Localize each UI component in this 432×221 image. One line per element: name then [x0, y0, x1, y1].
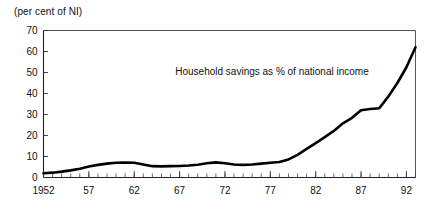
- line-chart-plot: 01020304050607019525762677277828792House…: [0, 0, 432, 221]
- x-tick-label: 77: [265, 185, 277, 196]
- x-tick-label: 92: [401, 185, 413, 196]
- y-tick-label: 70: [26, 25, 38, 36]
- y-tick-label: 0: [32, 172, 38, 183]
- x-tick-label: 57: [83, 185, 95, 196]
- x-tick-label: 82: [310, 185, 322, 196]
- y-tick-label: 50: [26, 67, 38, 78]
- plot-frame: [44, 31, 416, 178]
- y-tick-label: 10: [26, 151, 38, 162]
- x-tick-label: 62: [129, 185, 141, 196]
- y-tick-label: 40: [26, 88, 38, 99]
- y-tick-label: 30: [26, 109, 38, 120]
- series-annotation-label: Household savings as % of national incom…: [175, 66, 369, 77]
- x-tick-label: 67: [174, 185, 186, 196]
- y-tick-label: 60: [26, 46, 38, 57]
- x-tick-label: 1952: [32, 185, 55, 196]
- x-tick-label: 72: [219, 185, 231, 196]
- x-tick-label: 87: [355, 185, 367, 196]
- y-tick-label: 20: [26, 130, 38, 141]
- chart-container: (per cent of NI) 01020304050607019525762…: [0, 0, 432, 221]
